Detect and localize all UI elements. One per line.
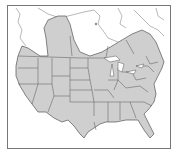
range-map — [8, 6, 170, 148]
map-frame — [7, 5, 171, 149]
